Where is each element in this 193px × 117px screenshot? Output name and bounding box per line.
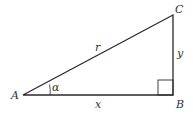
right-triangle-diagram: A B C r y x α (0, 0, 193, 117)
triangle-outline (23, 15, 173, 95)
vertex-label-a: A (10, 89, 19, 102)
vertex-label-c: C (175, 3, 184, 16)
angle-label-alpha: α (52, 81, 60, 94)
side-label-y: y (176, 47, 184, 60)
right-angle-marker (158, 80, 173, 95)
angle-arc (50, 85, 51, 96)
vertex-label-b: B (175, 98, 184, 111)
side-label-x: x (95, 98, 102, 111)
side-label-r: r (95, 41, 101, 54)
